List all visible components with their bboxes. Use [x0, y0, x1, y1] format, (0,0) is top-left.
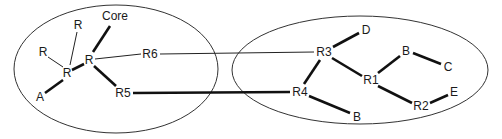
- link-r1-b_top: [378, 56, 400, 73]
- link-r_mid-r_left: [48, 57, 63, 67]
- link-r3-d: [333, 33, 359, 47]
- node-r4: R4: [292, 85, 308, 99]
- link-r3-r1: [332, 58, 362, 76]
- region-left: [14, 5, 218, 133]
- network-nodes: CoreRRRRAR6R5R3DR4R1BCR2EB: [36, 9, 458, 124]
- link-a-r_mid: [45, 80, 63, 93]
- node-r_hub: R: [85, 53, 94, 67]
- link-r2-e: [430, 95, 448, 103]
- node-a: A: [36, 90, 44, 104]
- link-r6-r3: [160, 52, 314, 54]
- node-b_top: B: [402, 44, 410, 58]
- link-r_hub-r5: [94, 66, 116, 86]
- link-r5-r4: [133, 92, 290, 93]
- node-r3: R3: [316, 45, 332, 59]
- node-r_mid: R: [63, 66, 72, 80]
- link-r_mid-r_hub: [72, 64, 84, 70]
- link-r_hub-r6: [95, 54, 141, 59]
- node-r2: R2: [413, 99, 429, 113]
- node-core: Core: [102, 9, 128, 23]
- link-r_hub-core: [93, 26, 110, 52]
- link-b_top-c: [413, 53, 441, 64]
- node-r_left: R: [39, 45, 48, 59]
- network-regions: [14, 5, 488, 133]
- node-b_bot: B: [353, 110, 361, 124]
- node-r6: R6: [142, 47, 158, 61]
- node-r1: R1: [363, 73, 379, 87]
- link-r4-b_bot: [309, 96, 350, 113]
- link-r1-r2: [378, 86, 412, 103]
- node-c: C: [444, 60, 453, 74]
- link-r3-r4: [304, 60, 320, 84]
- node-r5: R5: [115, 86, 131, 100]
- network-diagram: CoreRRRRAR6R5R3DR4R1BCR2EB: [0, 0, 502, 139]
- node-r_top: R: [74, 18, 83, 32]
- link-r_mid-r_top: [70, 32, 77, 65]
- node-e: E: [450, 85, 458, 99]
- node-d: D: [362, 23, 371, 37]
- network-links: [45, 26, 448, 113]
